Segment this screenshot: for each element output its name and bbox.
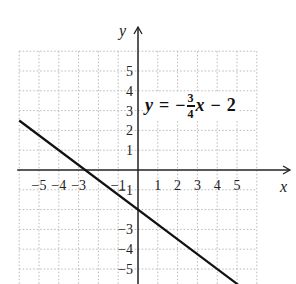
y-tick-label: 2 <box>126 123 133 138</box>
equation-operator: − <box>211 95 221 116</box>
x-tick-label: −4 <box>51 178 66 193</box>
y-tick-label: 1 <box>126 143 133 158</box>
y-tick-label: 4 <box>126 84 133 99</box>
x-tick-label: −5 <box>32 178 47 193</box>
x-tick-label: 4 <box>214 178 221 193</box>
x-tick-label: 5 <box>234 178 241 193</box>
equation-constant: 2 <box>227 95 236 116</box>
equation-sign: − <box>175 95 185 116</box>
y-tick-label: 3 <box>126 104 133 119</box>
x-axis-label: x <box>279 178 287 195</box>
fraction-denominator: 4 <box>188 108 194 120</box>
x-tick-label: 3 <box>194 178 201 193</box>
y-tick-label: −3 <box>118 222 133 237</box>
axes <box>17 27 290 284</box>
equation-label: y = − 3 4 x − 2 <box>143 92 238 120</box>
x-tick-label: 1 <box>154 178 161 193</box>
y-tick-label: 5 <box>126 64 133 79</box>
y-tick-label: −5 <box>118 262 133 277</box>
equation-fraction: 3 4 <box>187 92 195 120</box>
y-tick-label: −4 <box>118 242 133 257</box>
y-axis-label: y <box>117 22 127 40</box>
equation-equals: = <box>159 95 169 116</box>
equation-lhs: y <box>145 95 153 116</box>
coordinate-plane: −5−4−3−11234554321−1−3−4−5 x y <box>0 0 296 284</box>
x-tick-label: 2 <box>174 178 181 193</box>
fraction-numerator: 3 <box>188 92 194 104</box>
equation-variable: x <box>196 95 205 116</box>
x-tick-label: −3 <box>71 178 86 193</box>
